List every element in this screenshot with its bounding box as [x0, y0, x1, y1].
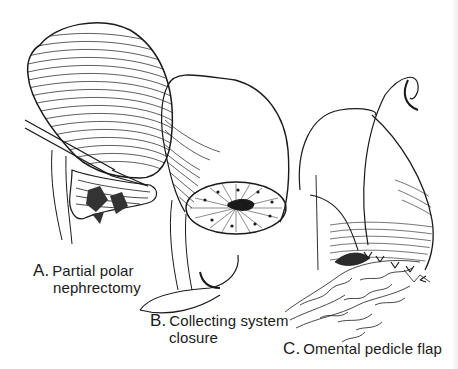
panel-a-caption-line2: nephrectomy: [33, 279, 141, 296]
panel-b-drawing: [140, 75, 289, 313]
panel-c-drawing: [285, 77, 440, 342]
panel-c-caption-line1: Omental pedicle flap: [303, 340, 442, 357]
panel-a-drawing: [25, 23, 175, 244]
panel-a-caption-line1: Partial polar: [52, 262, 133, 279]
panel-c-caption: C.Omental pedicle flap: [283, 340, 442, 357]
panel-b-caption-line1: Collecting system: [169, 312, 288, 329]
panel-a-caption: A.Partial polar nephrectomy: [33, 262, 141, 296]
medical-illustration-figure: A.Partial polar nephrectomy B.Collecting…: [0, 0, 458, 369]
panel-c-letter: C.: [283, 339, 300, 358]
panel-a-letter: A.: [33, 261, 49, 280]
page-edge-shadow: [452, 0, 458, 369]
panel-b-letter: B.: [150, 311, 166, 330]
panel-b-caption: B.Collecting system closure: [150, 312, 289, 346]
panel-b-caption-line2: closure: [150, 329, 289, 346]
